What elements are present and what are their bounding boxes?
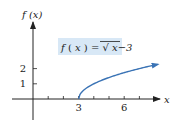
x-tick-label: 6 xyxy=(121,102,127,113)
y-axis-label: f (x) xyxy=(21,9,42,20)
y-tick-label: 2 xyxy=(20,63,26,74)
y-tick-label: 1 xyxy=(20,78,26,89)
equation-text: f ( x ) = √ x−3 xyxy=(60,42,132,53)
series-curve xyxy=(79,64,158,99)
eq-radicand: x−3 xyxy=(112,42,132,53)
equation-label: f ( x ) = √ x−3 xyxy=(58,38,132,55)
eq-equals: = xyxy=(91,42,103,53)
x-tick-label: 3 xyxy=(75,102,81,113)
ticks-group: 3612 xyxy=(20,63,140,113)
eq-sqrt-sign: √ xyxy=(102,42,109,53)
function-graph: x f (x) 3612 f ( x ) = √ x−3 xyxy=(0,0,177,125)
eq-func-name: f xyxy=(60,42,67,53)
x-axis-label: x xyxy=(164,94,170,105)
eq-paren-open: ( xyxy=(68,42,72,53)
eq-paren-close: ) xyxy=(84,42,88,53)
eq-arg: x xyxy=(75,42,81,53)
